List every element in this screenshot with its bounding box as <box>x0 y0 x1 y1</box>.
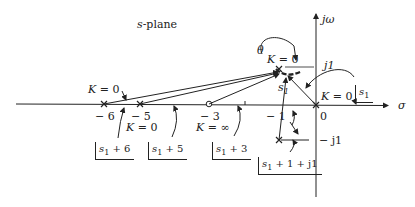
angle-s1-label: s1 <box>355 85 373 103</box>
tick-neg6: − 6 <box>95 111 115 122</box>
real-axis-label: σ <box>398 100 406 111</box>
gain-k0-origin: K = 0 <box>321 91 352 102</box>
angle-s1-plus-6-label: s1 + 6 <box>95 142 134 160</box>
diagram-graphics <box>0 0 415 207</box>
gain-kinf-neg3: K = ∞ <box>196 122 230 133</box>
gain-k0-upper: K = 0 <box>267 54 298 65</box>
theta-label: θ <box>257 45 264 56</box>
gain-k0-neg5: K = 0 <box>126 122 157 133</box>
s1-label: s1 <box>278 82 289 96</box>
j1-label: j1 <box>324 60 334 71</box>
angle-s1-plus-5-label: s1 + 5 <box>148 142 187 160</box>
angle-s1-plus-1-plus-j1-label: s1 + 1 + j1 <box>258 157 322 175</box>
gain-k0-neg6: KK = 0 = 0 <box>88 84 119 95</box>
imag-axis-label: jω <box>322 14 334 25</box>
tick-neg1: − 1 <box>266 111 286 122</box>
angle-s1-plus-3-label: s1 + 3 <box>212 142 251 160</box>
tick-zero: 0 <box>320 111 327 122</box>
neg-j1-label: − j1 <box>319 135 342 146</box>
s-plane-diagram: ss-plane-plane jω σ j1 − j1 − 6 − 5 − 3 … <box>0 0 415 207</box>
diagram-title: ss-plane-plane <box>137 19 177 30</box>
